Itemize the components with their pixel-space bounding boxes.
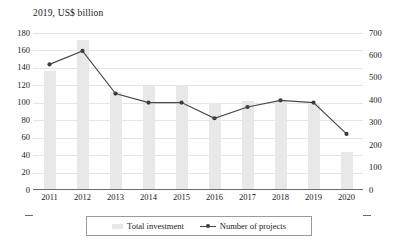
left-axis-tick-label: 180	[17, 29, 30, 38]
line-markers	[47, 49, 348, 136]
line-marker	[113, 91, 117, 95]
line-marker	[344, 132, 348, 136]
legend-item-number-of-projects: Number of projects	[200, 221, 286, 231]
chart-container: 2019, US$ billion 0204060801001201401601…	[0, 0, 398, 249]
left-axis-tick-label: 40	[22, 151, 31, 160]
plot-area	[33, 33, 363, 190]
right-axis-tick-label: 200	[369, 141, 382, 150]
line-marker	[311, 100, 315, 104]
chart-legend: Total investment Number of projects	[86, 216, 312, 236]
line-marker	[179, 100, 183, 104]
legend-label: Total investment	[127, 221, 184, 231]
left-axis-tick-label: 140	[17, 63, 30, 72]
left-axis-endcap	[25, 215, 33, 216]
line-marker	[146, 100, 150, 104]
chart-title: 2019, US$ billion	[33, 8, 103, 18]
right-axis-tick-label: 500	[369, 73, 382, 82]
right-axis-endcap	[363, 215, 371, 216]
x-axis-tick-label: 2020	[327, 193, 367, 202]
left-axis-tick-label: 160	[17, 46, 30, 55]
line-marker-swatch-icon	[200, 223, 216, 230]
right-axis-tick-label: 400	[369, 96, 382, 105]
left-axis-tick-label: 80	[22, 116, 31, 125]
right-axis-tick-label: 700	[369, 29, 382, 38]
line-marker	[212, 116, 216, 120]
line-marker	[47, 62, 51, 66]
right-axis-tick-label: 0	[369, 186, 373, 195]
left-axis-tick-label: 120	[17, 81, 30, 90]
left-axis-tick-label: 100	[17, 98, 30, 107]
line-series-number-of-projects	[33, 33, 363, 190]
line-path	[50, 51, 347, 134]
right-axis-tick-label: 600	[369, 51, 382, 60]
line-marker	[278, 98, 282, 102]
left-axis-tick-label: 60	[22, 133, 31, 142]
line-marker	[80, 49, 84, 53]
line-marker	[245, 105, 249, 109]
left-axis-tick-label: 20	[22, 168, 31, 177]
x-axis-line	[33, 189, 363, 190]
right-axis-tick-label: 300	[369, 118, 382, 127]
legend-item-total-investment: Total investment	[112, 221, 184, 231]
legend-label: Number of projects	[220, 221, 286, 231]
bar-swatch-icon	[112, 224, 123, 229]
right-axis-tick-label: 100	[369, 163, 382, 172]
